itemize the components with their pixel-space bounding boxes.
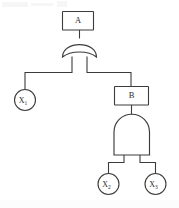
node-top-event-a[interactable]: A <box>63 12 94 31</box>
node-or-gate[interactable] <box>63 45 97 57</box>
fault-tree-diagram: A X1 B X2 X3 <box>0 0 179 208</box>
node-basic-event-x3[interactable]: X3 <box>145 174 166 195</box>
edge-or-gate-to-b <box>87 57 131 87</box>
node-intermediate-event-b[interactable]: B <box>115 87 149 106</box>
top-event-label: A <box>75 15 82 25</box>
or-gate-shape[interactable] <box>63 45 97 57</box>
edge-and-gate-to-x3 <box>140 155 156 174</box>
edge-or-gate-to-x1 <box>25 57 72 90</box>
and-gate-shape[interactable] <box>114 114 150 155</box>
node-and-gate[interactable] <box>114 114 150 155</box>
node-basic-event-x2[interactable]: X2 <box>98 174 119 195</box>
edge-and-gate-to-x2 <box>109 155 125 174</box>
intermediate-event-label: B <box>129 90 135 100</box>
node-basic-event-x1[interactable]: X1 <box>15 90 36 111</box>
fault-tree-canvas: A X1 B X2 X3 <box>0 0 179 208</box>
